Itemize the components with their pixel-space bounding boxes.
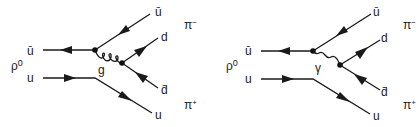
vertex-2 — [119, 60, 125, 66]
arrow-down-right-icon — [118, 91, 132, 101]
arrow-down-left-icon — [118, 25, 130, 35]
rho-meson-label: ρ0 — [226, 58, 238, 73]
vertex-1 — [92, 47, 98, 53]
arrow-up-right-icon — [134, 46, 147, 57]
u-in-label: u — [27, 71, 34, 85]
rho-meson-label: ρ0 — [11, 58, 23, 73]
vertex-2 — [337, 62, 343, 68]
u-spectator-line — [261, 79, 370, 114]
photon-label: γ — [315, 61, 321, 75]
arrow-left-icon — [278, 47, 290, 55]
feynman-diagrams: ρ0 ū u g ū d d̄ u π− π+ — [0, 0, 419, 127]
arrow-right-icon — [282, 75, 294, 83]
dbar-out-label: d̄ — [161, 83, 168, 97]
ubar-in-label: ū — [245, 44, 252, 58]
arrow-up-right-icon — [355, 47, 368, 59]
pi-plus-label: π+ — [184, 98, 197, 112]
dbar-out-label: d̄ — [381, 85, 388, 99]
d-out-label: d — [381, 31, 388, 45]
gluon-propagator — [95, 50, 122, 63]
ubar-out-label: ū — [373, 5, 380, 19]
pi-minus-label: π− — [184, 18, 197, 32]
u-out-label: u — [155, 108, 162, 122]
arrow-left-icon — [60, 46, 72, 54]
arrow-down-left-icon — [336, 26, 348, 36]
u-spectator-line — [43, 78, 152, 113]
arrow-right-icon — [64, 74, 76, 82]
vertex-1 — [310, 48, 316, 54]
arrow-up-left-icon — [135, 72, 148, 83]
arrow-down-right-icon — [336, 92, 350, 102]
u-out-label: u — [373, 109, 380, 123]
diagram-gluon: ρ0 ū u g ū d d̄ u π− π+ — [11, 5, 197, 122]
pi-plus-label: π+ — [403, 98, 416, 112]
gluon-label: g — [98, 63, 105, 77]
d-out-label: d — [161, 30, 168, 44]
arrow-up-left-icon — [354, 74, 367, 85]
ubar-out-label: ū — [155, 5, 162, 19]
diagram-photon: ρ0 ū u γ ū d d̄ u π− π+ — [226, 5, 416, 123]
u-in-label: u — [245, 72, 252, 86]
ubar-in-label: ū — [27, 44, 34, 58]
pi-minus-label: π− — [403, 18, 416, 32]
